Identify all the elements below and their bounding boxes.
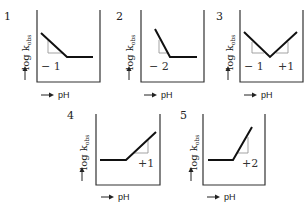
svg-text:log kobs: log kobs xyxy=(20,35,32,70)
slope-label-right: +1 xyxy=(278,60,294,73)
x-axis-arrow-icon xyxy=(144,93,157,98)
panel-number: 2 xyxy=(116,10,123,23)
panel-3: 3 log kobs − 1 +1 pH xyxy=(216,10,303,100)
slope-triangle-left xyxy=(252,42,264,53)
panel-number: 4 xyxy=(67,109,74,122)
panel-number: 1 xyxy=(4,10,11,23)
x-axis-label: pH xyxy=(118,192,130,202)
x-axis-label: pH xyxy=(261,90,273,100)
slope-label-left: − 1 xyxy=(244,60,264,73)
plot-frame xyxy=(203,114,265,185)
svg-text:log kobs: log kobs xyxy=(188,135,200,170)
slope-triangle-right xyxy=(276,42,288,53)
y-axis-label: log kobs xyxy=(188,135,200,170)
panel-1: 1 log kobs − 1 pH xyxy=(4,10,100,100)
panel-4: 4 log kobs +1 pH xyxy=(67,109,160,202)
x-axis-arrow-icon xyxy=(207,195,220,200)
slope-label: +1 xyxy=(138,157,154,170)
slope-label: − 2 xyxy=(149,60,169,73)
y-axis-label: log kobs xyxy=(20,35,32,70)
y-axis-label: log kobs xyxy=(78,135,90,170)
svg-text:log kobs: log kobs xyxy=(78,135,90,170)
x-axis-label: pH xyxy=(224,192,236,202)
x-axis-label: pH xyxy=(58,90,70,100)
x-axis-arrow-icon xyxy=(101,195,114,200)
y-axis-label: log kobs xyxy=(124,35,136,70)
svg-text:log kobs: log kobs xyxy=(224,35,236,70)
panel-number: 3 xyxy=(216,10,223,23)
slope-label: − 1 xyxy=(41,60,61,73)
plot-frame xyxy=(96,114,160,185)
ph-rate-profile-diagram: 1 log kobs − 1 pH 2 log kobs − 2 xyxy=(0,0,305,202)
x-axis-arrow-icon xyxy=(244,93,257,98)
panel-2: 2 log kobs − 2 pH xyxy=(116,10,204,100)
panel-number: 5 xyxy=(180,109,187,122)
svg-text:log kobs: log kobs xyxy=(124,35,136,70)
rate-curve xyxy=(208,127,252,160)
slope-label: +2 xyxy=(242,157,258,170)
y-axis-label: log kobs xyxy=(224,35,236,70)
x-axis-label: pH xyxy=(161,90,173,100)
panel-5: 5 log kobs +2 pH xyxy=(180,109,265,202)
x-axis-arrow-icon xyxy=(41,93,54,98)
